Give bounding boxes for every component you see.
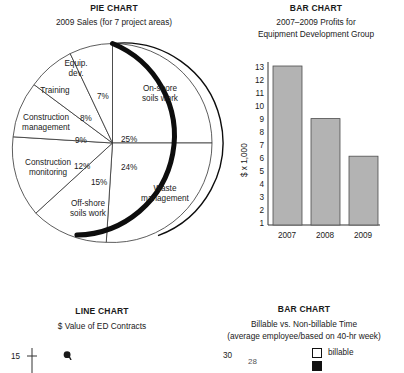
bar-chart-2-subtitle-line1: Billable vs. Non-billable Time — [204, 319, 404, 331]
pie-label-onshore: On-shore soils work — [129, 84, 191, 104]
bar-chart-title-block: BAR CHART 2007–2009 Profits for Equipmen… — [228, 3, 404, 40]
bar-chart-ytick-7: 7 — [248, 141, 264, 150]
bar-chart-ytick-10: 10 — [248, 102, 264, 111]
legend-item-billable: billable — [312, 346, 404, 359]
bar-chart-panel: BAR CHART 2007–2009 Profits for Equipmen… — [228, 0, 404, 262]
pie-label-equip-dev: Equip. dev. — [56, 59, 96, 79]
legend-label-billable: billable — [328, 348, 354, 357]
pie-chart-panel: PIE CHART 2009 Sales (for 7 project area… — [0, 0, 228, 262]
line-chart-segment — [69, 357, 70, 360]
pie-label-construction-management-line1: Construction — [5, 113, 87, 123]
bar-chart-xtick-2009: 2009 — [346, 231, 380, 240]
pie-label-construction-management-line2: management — [5, 123, 87, 133]
legend-item-nonbillable — [312, 359, 404, 372]
pie-label-training: Training — [32, 86, 78, 96]
pie-label-waste-line2: management — [130, 194, 200, 204]
pie-pct-offshore: 15% — [91, 178, 107, 187]
bar-chart-2-subtitle: Billable vs. Non-billable Time (average … — [204, 319, 404, 342]
legend-swatch-nonbillable-icon — [312, 361, 322, 371]
bar-chart-2-data-label-28: 28 — [248, 357, 257, 366]
bar-chart-subtitle-line1: 2007–2009 Profits for — [228, 17, 404, 29]
pie-label-equip-dev-line2: dev. — [56, 69, 96, 79]
line-chart-title: LINE CHART — [0, 306, 204, 316]
pie-label-onshore-line1: On-shore — [129, 84, 191, 94]
pie-chart-title: PIE CHART — [0, 3, 228, 13]
bar-chart-2-legend: billable — [312, 346, 404, 372]
pie-chart-graphic — [0, 36, 228, 262]
bar-chart-ytick-11: 11 — [248, 89, 264, 98]
pie-label-equip-dev-line1: Equip. — [56, 59, 96, 69]
pie-pct-equip-dev: 7% — [97, 92, 109, 101]
bar-chart-ytick-12: 12 — [248, 76, 264, 85]
bar-chart-xtick-2007: 2007 — [270, 231, 304, 240]
pie-label-waste-line1: Waste — [130, 184, 200, 194]
pie-label-offshore-line1: Off-shore — [58, 199, 118, 209]
bar-chart-ytick-3: 3 — [248, 193, 264, 202]
pie-label-offshore-line2: soils work — [58, 209, 118, 219]
line-chart-subtitle: $ Value of ED Contracts — [0, 321, 204, 333]
bar-2007 — [273, 66, 302, 225]
bar-chart-subtitle-line2: Equipment Development Group — [228, 29, 404, 41]
line-chart-ytick-15: 15 — [11, 352, 20, 361]
bar-chart-ytick-2: 2 — [248, 206, 264, 215]
bar-chart-y-axis-label: $ x 1,000 — [240, 143, 249, 177]
bar-chart-ytick-5: 5 — [248, 167, 264, 176]
pie-pct-training: 8% — [80, 114, 92, 123]
bar-2009 — [349, 156, 378, 225]
line-chart-data-marker — [63, 351, 72, 360]
bar-chart-ytick-6: 6 — [248, 154, 264, 163]
bar-chart-bars — [273, 66, 378, 225]
bar-2008 — [311, 119, 340, 225]
bar-chart-2-subtitle-line2: (average employee/based on 40-hr week) — [204, 331, 404, 343]
bar-chart-ytick-1: 1 — [248, 219, 264, 228]
bar-chart-xtick-2008: 2008 — [308, 231, 342, 240]
line-chart-title-block: LINE CHART $ Value of ED Contracts — [0, 306, 204, 333]
bar-chart-title: BAR CHART — [228, 3, 404, 13]
bar-chart-ytick-9: 9 — [248, 115, 264, 124]
pie-chart-title-block: PIE CHART 2009 Sales (for 7 project area… — [0, 3, 228, 29]
pie-label-construction-management: Construction management — [5, 113, 87, 133]
pie-pct-construction-monitoring: 12% — [74, 162, 90, 171]
pie-pct-waste: 24% — [121, 163, 137, 172]
bar-chart-2-panel: BAR CHART Billable vs. Non-billable Time… — [204, 300, 404, 373]
line-chart-axis-graphic — [26, 348, 40, 373]
pie-label-offshore: Off-shore soils work — [58, 199, 118, 219]
line-chart-panel: LINE CHART $ Value of ED Contracts 15 — [0, 300, 204, 373]
bar-chart-2-title-block: BAR CHART Billable vs. Non-billable Time… — [204, 304, 404, 342]
bar-chart-2-ytick-30: 30 — [223, 351, 232, 360]
pie-label-onshore-line2: soils work — [129, 94, 191, 104]
bar-chart-subtitle: 2007–2009 Profits for Equipment Developm… — [228, 17, 404, 40]
pie-pct-construction-management: 9% — [75, 136, 87, 145]
pie-label-waste: Waste management — [130, 184, 200, 204]
bar-chart-ytick-8: 8 — [248, 128, 264, 137]
pie-pct-onshore: 25% — [121, 135, 137, 144]
bar-chart-ytick-4: 4 — [248, 180, 264, 189]
pie-chart-subtitle: 2009 Sales (for 7 project areas) — [0, 17, 228, 29]
bar-chart-2-title: BAR CHART — [204, 304, 404, 314]
legend-swatch-billable-icon — [312, 348, 322, 358]
bar-chart-ytick-13: 13 — [248, 63, 264, 72]
